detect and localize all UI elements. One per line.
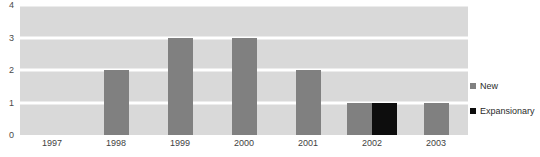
bar-group	[148, 5, 212, 135]
y-axis-tick-label: 0	[9, 131, 14, 140]
y-axis-tick-label: 2	[9, 66, 14, 75]
x-axis-tick-label: 2000	[234, 139, 254, 148]
bar-group	[212, 5, 276, 135]
x-axis-tick-label: 1997	[42, 139, 62, 148]
legend-label-expansionary: Expansionary	[480, 107, 535, 116]
bar[interactable]	[296, 70, 321, 135]
bar[interactable]	[372, 103, 397, 136]
legend-label-new: New	[480, 82, 498, 91]
bar[interactable]	[104, 70, 129, 135]
bar-group	[404, 5, 468, 135]
y-axis-tick-label: 1	[9, 98, 14, 107]
bar-group	[340, 5, 404, 135]
x-axis-tick-label: 1999	[170, 139, 190, 148]
legend-swatch-new	[470, 83, 476, 89]
legend-item-new[interactable]: New	[470, 78, 540, 94]
legend-item-expansionary[interactable]: Expansionary	[470, 103, 540, 119]
chart-legend: New Expansionary	[470, 78, 540, 128]
bar[interactable]	[168, 38, 193, 136]
y-axis: 01234	[0, 0, 20, 157]
bar-group	[20, 5, 84, 135]
bar[interactable]	[424, 103, 449, 136]
bars-layer	[20, 5, 468, 135]
bar-group	[276, 5, 340, 135]
bar[interactable]	[347, 103, 372, 136]
x-axis-tick-label: 2001	[298, 139, 318, 148]
plot-area	[20, 5, 468, 135]
bar-group	[84, 5, 148, 135]
x-axis: 1997199819992000200120022003	[20, 139, 468, 157]
x-axis-line	[20, 135, 468, 136]
x-axis-tick-label: 2003	[426, 139, 446, 148]
y-axis-tick-label: 4	[9, 1, 14, 10]
y-axis-tick-label: 3	[9, 33, 14, 42]
x-axis-tick-label: 1998	[106, 139, 126, 148]
legend-swatch-expansionary	[470, 108, 476, 114]
bar[interactable]	[232, 38, 257, 136]
x-axis-tick-label: 2002	[362, 139, 382, 148]
bar-chart: 01234 1997199819992000200120022003 New E…	[0, 0, 540, 157]
